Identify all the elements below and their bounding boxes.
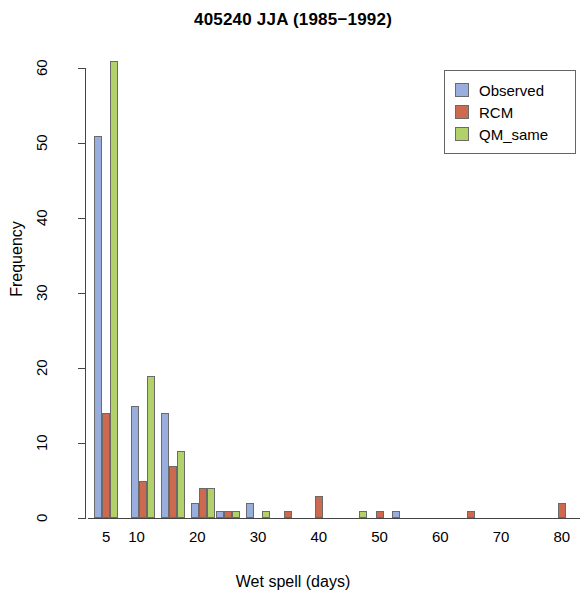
y-axis-line [85, 68, 86, 519]
y-axis-tick [78, 143, 85, 144]
bar-qm_same-5 [110, 61, 118, 519]
y-axis-tick-label: 20 [34, 348, 74, 388]
bar-rcm-80 [558, 503, 566, 518]
y-axis-tick-label: 40 [34, 198, 74, 238]
x-axis-tick-label: 40 [299, 528, 339, 545]
bar-rcm-25 [224, 511, 232, 519]
bar-rcm-65 [467, 511, 475, 519]
bar-rcm-16 [169, 466, 177, 519]
legend-item-qm_same[interactable]: QM_same [455, 123, 567, 145]
y-axis-tick [78, 293, 85, 294]
bar-rcm-5 [102, 413, 110, 518]
legend-item-rcm[interactable]: RCM [455, 101, 567, 123]
y-axis-title: Frequency [8, 159, 26, 359]
bar-rcm-40 [315, 496, 323, 519]
y-axis-tick [78, 518, 85, 519]
bar-observed-30 [246, 503, 254, 518]
chart-legend: ObservedRCMQM_same [444, 70, 576, 154]
y-axis-tick [78, 68, 85, 69]
y-axis-tick [78, 443, 85, 444]
bar-qm_same-16 [177, 451, 185, 519]
x-axis-tick-label: 80 [542, 528, 582, 545]
y-axis-tick-label: 60 [34, 48, 74, 88]
legend-swatch-icon [455, 105, 469, 119]
histogram-chart: 405240 JJA (1985−1992) 0102030405060 510… [0, 0, 586, 611]
bar-qm_same-25 [232, 511, 240, 519]
x-axis-tick-label: 20 [177, 528, 217, 545]
y-axis-tick [78, 368, 85, 369]
x-axis-tick-label: 10 [117, 528, 157, 545]
legend-item-observed[interactable]: Observed [455, 79, 567, 101]
bar-qm_same-21 [207, 488, 215, 518]
y-axis-tick-label: 50 [34, 123, 74, 163]
legend-swatch-icon [455, 127, 469, 141]
bar-observed-21 [191, 503, 199, 518]
bar-rcm-21 [199, 488, 207, 518]
bar-rcm-11 [139, 481, 147, 519]
legend-label: QM_same [479, 126, 548, 143]
bar-qm_same-30 [262, 511, 270, 519]
bar-observed-11 [131, 406, 139, 519]
x-axis-tick-label: 60 [420, 528, 460, 545]
chart-title: 405240 JJA (1985−1992) [0, 10, 586, 30]
legend-label: Observed [479, 82, 544, 99]
bar-qm_same-46 [359, 511, 367, 519]
bar-rcm-50 [376, 511, 384, 519]
y-axis-tick [78, 218, 85, 219]
legend-swatch-icon [455, 83, 469, 97]
bar-observed-25 [216, 511, 224, 519]
bar-observed-16 [161, 413, 169, 518]
legend-label: RCM [479, 104, 513, 121]
bar-observed-54 [392, 511, 400, 519]
y-axis-tick-label: 0 [34, 498, 74, 538]
bar-qm_same-11 [147, 376, 155, 519]
x-axis-tick-label: 70 [481, 528, 521, 545]
bar-rcm-35 [284, 511, 292, 519]
x-axis-tick-label: 30 [238, 528, 278, 545]
x-axis-tick-label: 50 [360, 528, 400, 545]
y-axis-tick-label: 10 [34, 423, 74, 463]
bar-observed-5 [94, 136, 102, 519]
y-axis-tick-label: 30 [34, 273, 74, 313]
x-axis-line [88, 518, 580, 519]
x-axis-title: Wet spell (days) [0, 573, 586, 591]
